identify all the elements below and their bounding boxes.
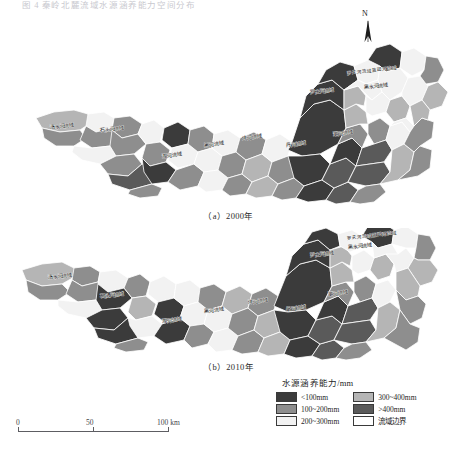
scale-bar-tick-0 [18,427,19,432]
legend-swatch [353,416,374,426]
panel-caption-2000: （a）2000年 [0,209,457,221]
scale-bar: 0 50 100 km [18,418,176,442]
legend-item: 200~300mm [276,416,339,426]
figure-top-caption: 图 4 秦岭北麓流域水源涵养能力空间分布 [22,0,442,11]
legend-column-1: <100mm 100~200mm 200~300mm [276,392,339,426]
scale-bar-tick-100 [168,427,169,432]
legend-label: 200~300mm [301,417,339,426]
legend-swatch [353,404,374,414]
legend-label: >400mm [378,405,405,414]
legend-title: 水源涵养能力/mm [282,376,456,388]
legend-item: >400mm [353,404,416,414]
map-a-svg: 湑水河流域石头河流域湘河流域黑河流域沣河流域丹河流域罗夫河流域黑水河流域灞河流域… [0,14,457,204]
legend-label: <100mm [301,393,328,402]
legend-item: <100mm [276,392,339,402]
legend-swatch [276,416,297,426]
figure-container: 图 4 秦岭北麓流域水源涵养能力空间分布 N [0,0,457,450]
map-b-svg: 湑水河流域石头河流域湘河流域黑河流域沣河流域丹河流域罗夫河流域黑水河流域灞河流域… [0,228,457,376]
legend-item: 100~200mm [276,404,339,414]
scale-bar-label-0: 0 [16,418,20,427]
panel-caption-2010: （b）2010年 [0,360,457,372]
legend-item: 流域边界 [353,416,416,426]
map-panel-2010: 湑水河流域石头河流域湘河流域黑河流域沣河流域丹河流域罗夫河流域黑水河流域灞河流域… [0,228,457,376]
legend-label: 流域边界 [378,417,406,426]
scale-bar-tick-50 [93,427,94,432]
legend-item: 300~400mm [353,392,416,402]
scale-bar-label-100: 100 km [157,418,180,427]
legend-column-2: 300~400mm >400mm 流域边界 [353,392,416,426]
map-panel-2000: 湑水河流域石头河流域湘河流域黑河流域沣河流域丹河流域罗夫河流域黑水河流域灞河流域… [0,14,457,204]
legend-swatch [276,404,297,414]
legend-swatch [276,392,297,402]
legend: 水源涵养能力/mm <100mm 100~200mm 200~300mm [276,376,456,426]
legend-label: 100~200mm [301,405,339,414]
legend-swatch [353,392,374,402]
legend-label: 300~400mm [378,393,416,402]
scale-bar-label-50: 50 [86,418,94,427]
